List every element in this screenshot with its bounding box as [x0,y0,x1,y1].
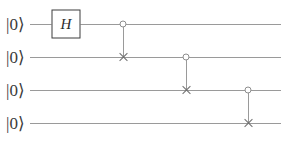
target-cross-q1[interactable] [118,52,129,63]
qubit-wire-1 [30,57,281,58]
gate-hadamard-label: H [61,16,72,33]
target-cross-q3[interactable] [243,118,254,129]
control-open-circle-q0[interactable] [120,21,127,28]
target-cross-q2[interactable] [181,85,192,96]
qubit-label-1: |0⟩ [6,49,25,66]
qubit-wire-2 [30,90,281,91]
gate-hadamard-q0[interactable]: H [52,10,81,39]
qubit-label-0: |0⟩ [6,16,25,33]
qubit-label-2: |0⟩ [6,82,25,99]
control-open-circle-q2[interactable] [245,87,252,94]
control-open-circle-q1[interactable] [183,54,190,61]
qubit-label-3: |0⟩ [6,115,25,132]
quantum-circuit-diagram: |0⟩ |0⟩ |0⟩ |0⟩ H [0,0,288,145]
